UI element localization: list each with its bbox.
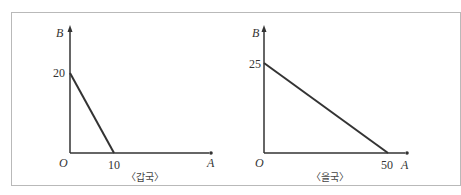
chart-eulguk: B 25 O 50 A 〈을국〉 bbox=[249, 25, 409, 183]
chart-caption: 〈갑국〉 bbox=[126, 172, 164, 183]
x-axis-label: A bbox=[400, 158, 409, 172]
ppf-line bbox=[264, 63, 388, 153]
y-axis-label: B bbox=[56, 26, 64, 40]
x-axis-arrow-icon bbox=[405, 151, 409, 155]
origin-label: O bbox=[59, 156, 68, 170]
y-axis-arrow-icon bbox=[68, 25, 73, 32]
chart-gapguk: B 20 O 10 A 〈갑국〉 bbox=[53, 25, 215, 183]
ppf-line bbox=[70, 73, 114, 153]
x-axis-arrow-icon bbox=[209, 151, 213, 155]
x-intercept-label: 50 bbox=[381, 158, 393, 172]
x-axis-label: A bbox=[206, 156, 215, 170]
y-axis-label: B bbox=[252, 26, 260, 40]
y-intercept-label: 20 bbox=[53, 66, 65, 80]
y-intercept-label: 25 bbox=[249, 57, 261, 71]
y-axis-arrow-icon bbox=[262, 25, 267, 32]
origin-label: O bbox=[255, 156, 264, 170]
x-intercept-label: 10 bbox=[108, 158, 120, 172]
chart-caption: 〈을국〉 bbox=[311, 172, 349, 183]
